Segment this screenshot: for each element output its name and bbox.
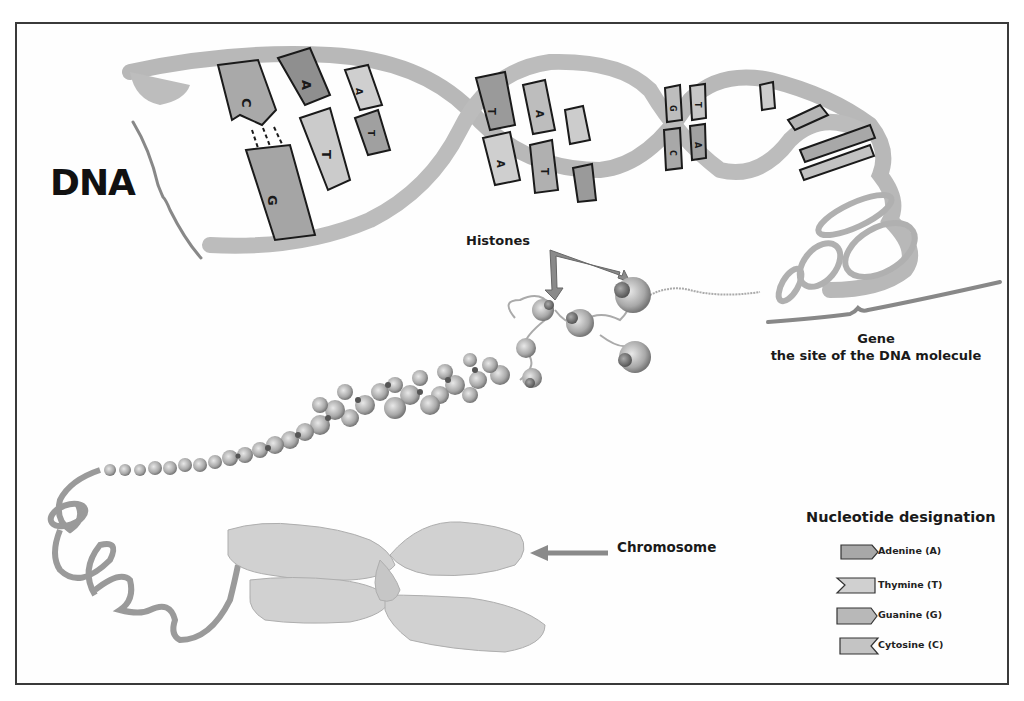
svg-text:A: A: [354, 88, 364, 95]
svg-text:G: G: [668, 105, 677, 112]
svg-text:C: C: [239, 98, 254, 108]
svg-text:T: T: [366, 130, 376, 137]
cytosine-swatch: [840, 638, 878, 654]
chromosome-label: Chromosome: [617, 539, 716, 555]
legend-item-thymine: Thymine (T): [878, 579, 942, 590]
nucleosome: [614, 277, 651, 313]
gene-subtitle: the site of the DNA molecule: [740, 347, 1012, 364]
nucleosomes: [490, 277, 651, 388]
dna-title: DNA: [50, 162, 135, 203]
legend-item-guanine: Guanine (G): [878, 609, 942, 620]
svg-text:A: A: [299, 80, 314, 90]
legend-item-cytosine: Cytosine (C): [878, 639, 943, 650]
nucleosome: [522, 368, 542, 388]
nucleosome: [566, 309, 594, 337]
svg-text:C: C: [668, 150, 677, 156]
nucleosome: [532, 299, 554, 321]
histones-label: Histones: [466, 233, 530, 248]
svg-text:T: T: [319, 150, 334, 159]
guanine-swatch: [837, 608, 877, 624]
legend-swatches: [837, 545, 878, 654]
svg-text:A: A: [495, 160, 506, 168]
chromatin-fiber: [104, 353, 498, 476]
svg-text:A: A: [693, 142, 702, 149]
legend-title: Nucleotide designation: [806, 509, 995, 525]
chromosome-arrow: [530, 545, 608, 561]
adenine-swatch: [841, 545, 878, 559]
coiled-fiber: [48, 470, 238, 640]
svg-text:T: T: [486, 108, 497, 115]
chromosome-shape: [228, 522, 545, 652]
dna-bracket: [133, 122, 201, 258]
svg-text:G: G: [265, 195, 280, 206]
svg-text:T: T: [539, 168, 550, 175]
linker-dna: [650, 288, 760, 295]
thymine-swatch: [837, 578, 875, 593]
svg-text:T: T: [693, 102, 702, 108]
nucleosome: [516, 338, 536, 358]
gene-title: Gene: [740, 330, 1012, 347]
legend-item-adenine: Adenine (A): [878, 545, 941, 556]
svg-text:A: A: [534, 110, 545, 118]
gene-label: Gene the site of the DNA molecule: [740, 330, 1012, 364]
